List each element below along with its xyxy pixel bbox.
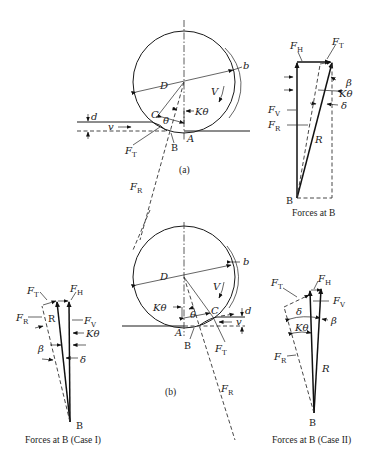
label-b-point: B xyxy=(286,195,293,206)
label-C-b: C xyxy=(211,305,219,316)
label-ft-case1: FT xyxy=(26,285,39,299)
caption-case1: Forces at B (Case I) xyxy=(25,435,101,446)
fr-dashed-vector xyxy=(297,65,320,198)
caption-case2: Forces at B (Case II) xyxy=(272,435,351,446)
label-theta-a: θ xyxy=(163,115,169,126)
label-r: R xyxy=(314,134,323,145)
label-theta-b: θ xyxy=(190,309,196,320)
ft-leader-b xyxy=(213,317,225,342)
r-vector-case2 xyxy=(314,289,321,413)
label-r-case1: R xyxy=(48,313,56,324)
label-ft-case2: FT xyxy=(270,277,283,291)
label-fv-case1: FV xyxy=(83,315,97,329)
label-ktheta-b: Kθ xyxy=(152,302,167,313)
label-fh-case1: FH xyxy=(69,283,83,297)
label-d-b: d xyxy=(245,305,251,316)
cutter-rim-b xyxy=(227,246,239,308)
label-FT-b: FT xyxy=(214,343,227,357)
fv-vector-case2 xyxy=(310,291,314,413)
label-v-b: v xyxy=(236,316,242,327)
panel-a-up-milling: D b V d v C θ Kθ A B FT FR (a) xyxy=(77,20,250,240)
caption-forces-at-b: Forces at B xyxy=(292,208,335,218)
label-fr-case1: FR xyxy=(15,312,29,326)
label-A-a: A xyxy=(186,133,194,144)
label-fv-case2: FV xyxy=(332,295,346,309)
label-A-b: A xyxy=(174,327,182,338)
diameter-line-a xyxy=(136,70,233,92)
fv-vector-case1 xyxy=(69,302,70,422)
label-delta: δ xyxy=(341,100,347,111)
caption-b: (b) xyxy=(165,387,176,398)
label-B-a: B xyxy=(171,142,178,153)
label-beta-case1: β xyxy=(37,343,44,354)
ft-vector-case1 xyxy=(43,301,56,305)
label-fr-case2: FR xyxy=(273,351,287,365)
label-d-a: d xyxy=(91,111,97,122)
forces-case-1-diagram: FT FH FR R FV Kθ β δ B Forces at B (Case… xyxy=(15,283,101,446)
caption-a: (a) xyxy=(179,165,190,176)
label-fh-case2: FH xyxy=(317,273,331,287)
label-D-b: D xyxy=(159,271,168,282)
forces-case-2-diagram: FH FT FV δ β Kθ FR R B Forces at B (Case… xyxy=(270,273,351,446)
label-beta: β xyxy=(345,77,352,88)
label-b-case1: B xyxy=(76,420,83,431)
label-v-a: v xyxy=(108,121,114,132)
fr-line-b xyxy=(184,277,235,440)
ft-leader-a xyxy=(133,127,160,145)
label-b-b: b xyxy=(243,256,249,267)
label-fv: FV xyxy=(267,104,281,118)
label-FT-a: FT xyxy=(124,145,137,159)
label-B-b: B xyxy=(184,340,191,351)
label-C-a: C xyxy=(151,109,159,120)
label-r-case2: R xyxy=(321,363,330,374)
label-ktheta-a: Kθ xyxy=(194,106,209,117)
radius-to-c-b xyxy=(184,277,213,317)
milling-force-diagram: D b V d v C θ Kθ A B FT FR (a) xyxy=(0,0,372,461)
r-vector-case1 xyxy=(57,302,70,422)
label-D-a: D xyxy=(159,80,168,91)
label-delta-case1: δ xyxy=(80,354,86,365)
fr-dashed-case1 xyxy=(42,306,70,422)
label-fh: FH xyxy=(289,40,303,54)
forces-at-b-diagram: FH FT β Kθ δ FV FR R B Forces at B xyxy=(267,36,353,218)
label-FR-b: FR xyxy=(220,383,234,397)
radius-to-b-a xyxy=(170,82,184,132)
r-vector xyxy=(297,63,332,198)
label-b-case2: B xyxy=(309,417,316,428)
rotation-arrow-a xyxy=(219,86,224,102)
cutter-rim-a xyxy=(225,48,241,118)
label-ktheta-case2: Kθ xyxy=(294,322,309,333)
label-V-b: V xyxy=(213,281,222,292)
label-fr: FR xyxy=(267,119,281,133)
panel-b-down-milling: D b V d v C θ Kθ A B FT FR (b) xyxy=(122,210,251,440)
label-FR-a: FR xyxy=(129,181,143,195)
label-ktheta: Kθ xyxy=(338,88,353,99)
label-ft: FT xyxy=(331,36,344,50)
label-V-a: V xyxy=(211,86,220,97)
b-leader-a xyxy=(233,67,242,70)
label-b-a: b xyxy=(243,60,249,71)
label-ktheta-case1: Kθ xyxy=(85,328,100,339)
fr-line-a-continued xyxy=(133,210,150,250)
label-beta-case2: β xyxy=(330,315,337,326)
label-delta-case2: δ xyxy=(296,306,302,317)
